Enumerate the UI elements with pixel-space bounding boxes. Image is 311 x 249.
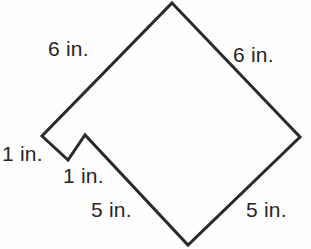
geometry-figure: 6 in. 6 in. 1 in. 1 in. 5 in. 5 in. [0,0,311,249]
label-inner-notch-side: 1 in. [63,165,104,186]
label-top-right-side: 6 in. [233,44,274,65]
label-top-left-side: 6 in. [48,38,89,59]
label-bottom-left-side: 5 in. [91,199,132,220]
label-bottom-right-side: 5 in. [246,199,287,220]
label-left-notch-side: 1 in. [2,143,43,164]
